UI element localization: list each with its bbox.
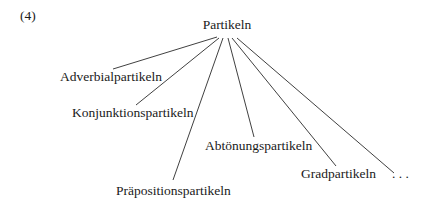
tree-child-node: Gradpartikeln <box>301 166 376 181</box>
tree-edge <box>228 38 254 137</box>
tree-child-node: . . . <box>392 166 409 181</box>
tree-root-node: Partikeln <box>203 17 252 32</box>
tree-edge <box>113 37 217 69</box>
tree-child-node: Adverbialpartikeln <box>60 69 162 84</box>
particle-tree-diagram: Partikeln AdverbialpartikelnKonjunktions… <box>0 0 422 214</box>
tree-child-node: Abtönungspartikeln <box>205 138 312 153</box>
tree-child-node: Präpositionspartikeln <box>116 183 231 198</box>
tree-child-nodes: AdverbialpartikelnKonjunktionspartikelnP… <box>60 69 409 198</box>
tree-child-node: Konjunktionspartikeln <box>72 105 194 120</box>
